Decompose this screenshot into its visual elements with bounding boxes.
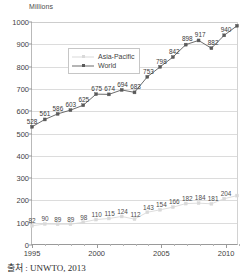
data-point-label: 898: [182, 36, 193, 42]
x-tick-mark-minor: [148, 244, 149, 246]
legend: Asia-Pacific World: [68, 48, 140, 74]
series-marker: [184, 43, 187, 46]
x-tick-mark-minor: [213, 244, 214, 246]
source-note: 출처 : UNWTO, 2013: [7, 261, 86, 274]
series-marker: [210, 202, 213, 205]
data-point-label: 204: [221, 191, 232, 197]
legend-item-world[interactable]: World: [72, 61, 135, 70]
x-tick-mark-minor: [110, 244, 111, 246]
y-tick-label: 400: [16, 151, 29, 160]
data-point-label: 842: [169, 48, 180, 54]
series-marker: [236, 194, 239, 197]
series-marker: [107, 93, 110, 96]
legend-label-asia-pacific: Asia-Pacific: [98, 53, 135, 60]
series-marker: [107, 217, 110, 220]
series-marker: [133, 218, 136, 221]
x-tick-mark: [226, 244, 227, 248]
data-point-label: 182: [182, 196, 193, 202]
data-point-label: 882: [208, 39, 219, 45]
data-point-label: 82: [28, 218, 35, 224]
data-point-label: 112: [130, 211, 140, 217]
y-tick-label: 300: [16, 174, 29, 183]
series-marker: [82, 104, 85, 107]
series-marker: [171, 56, 174, 59]
data-point-label: 940: [221, 26, 232, 32]
series-marker: [120, 88, 123, 91]
x-tick-label: 2005: [153, 249, 170, 258]
data-point-label: 683: [130, 84, 141, 90]
y-tick-label: 700: [16, 84, 29, 93]
series-marker: [223, 197, 226, 200]
series-marker: [184, 202, 187, 205]
series-marker: [56, 112, 59, 115]
data-point-label: 154: [156, 202, 167, 208]
series-marker: [82, 221, 85, 224]
x-tick-label: 2010: [218, 249, 235, 258]
series-marker: [43, 223, 46, 226]
data-point-label: 143: [143, 204, 154, 210]
y-tick-label: 800: [16, 62, 29, 71]
series-marker: [95, 218, 98, 221]
legend-label-world: World: [98, 62, 116, 69]
series-marker: [223, 34, 226, 37]
data-point-label: 528: [27, 118, 38, 124]
data-point-label: 181: [208, 196, 219, 202]
x-tick-mark-minor: [200, 244, 201, 246]
data-point-label: 115: [105, 210, 115, 216]
series-marker: [171, 206, 174, 209]
data-point-label: 917: [195, 32, 206, 38]
series-marker: [159, 208, 162, 211]
series-marker: [210, 47, 213, 50]
series-marker: [56, 223, 59, 226]
series-marker: [197, 39, 200, 42]
series-marker: [69, 223, 72, 226]
series-marker: [43, 118, 46, 121]
x-tick-mark-minor: [45, 244, 46, 246]
legend-swatch-world-icon: [72, 61, 94, 70]
x-tick-mark-minor: [123, 244, 124, 246]
data-point-label: 674: [104, 86, 115, 92]
x-tick-mark-minor: [84, 244, 85, 246]
series-marker: [95, 93, 98, 96]
data-point-label: 90: [41, 216, 48, 222]
data-point-label: 798: [156, 58, 167, 64]
tourism-arrivals-chart: Millions 0100200300400500600700800900100…: [0, 0, 247, 280]
data-point-label: 561: [40, 111, 51, 117]
data-point-label: 89: [54, 216, 61, 222]
series-marker: [159, 65, 162, 68]
series-marker: [146, 211, 149, 214]
data-point-label: 586: [53, 105, 64, 111]
series-marker: [69, 109, 72, 112]
data-point-label: 98: [80, 214, 87, 220]
data-point-label: 603: [65, 102, 76, 108]
legend-swatch-asia-pacific-icon: [72, 52, 94, 61]
data-point-label: 625: [78, 97, 89, 103]
legend-item-asia-pacific[interactable]: Asia-Pacific: [72, 52, 135, 61]
data-point-label: 110: [92, 212, 102, 218]
plot-area: 01002003004005006007008009001000 1995200…: [31, 22, 238, 245]
series-marker: [120, 215, 123, 218]
series-marker: [146, 75, 149, 78]
y-axis-title: Millions: [29, 3, 53, 10]
series-marker: [197, 202, 200, 205]
data-point-label: 753: [143, 68, 154, 74]
data-point-label: 124: [117, 208, 128, 214]
x-tick-mark-minor: [136, 244, 137, 246]
series-marker: [31, 125, 34, 128]
data-point-label: 675: [91, 86, 102, 92]
x-tick-mark-minor: [187, 244, 188, 246]
series-marker: [133, 91, 136, 94]
y-tick-label: 100: [16, 218, 29, 227]
y-tick-label: 500: [16, 129, 29, 138]
x-tick-mark: [161, 244, 162, 248]
x-tick-mark: [32, 244, 33, 248]
x-tick-label: 1995: [24, 249, 41, 258]
data-point-label: 184: [195, 195, 206, 201]
x-tick-mark: [97, 244, 98, 248]
x-tick-mark-minor: [239, 244, 240, 246]
y-tick-label: 200: [16, 196, 29, 205]
data-point-label: 694: [117, 81, 128, 87]
x-tick-mark-minor: [58, 244, 59, 246]
x-tick-mark-minor: [71, 244, 72, 246]
series-marker: [31, 224, 34, 227]
